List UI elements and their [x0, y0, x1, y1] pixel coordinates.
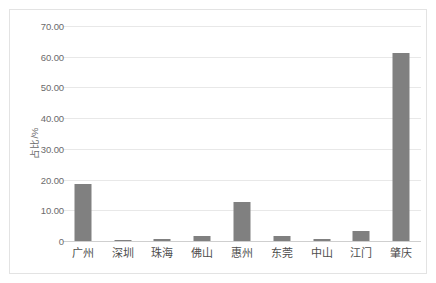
bar-slot	[341, 26, 381, 241]
axis-baseline	[63, 241, 421, 242]
bar[interactable]	[154, 239, 171, 241]
x-tick-label: 佛山	[191, 244, 213, 260]
chart-frame: 占比/% 010.0020.0030.0040.0050.0060.0070.0…	[9, 9, 427, 274]
bar-slot	[103, 26, 143, 241]
x-tick-label: 肇庆	[390, 244, 412, 260]
bar[interactable]	[194, 236, 211, 241]
bar-slot	[302, 26, 342, 241]
x-tick-label: 中山	[311, 244, 333, 260]
bar-slot	[143, 26, 183, 241]
x-tick-label: 深圳	[112, 244, 134, 260]
x-tick-label: 江门	[350, 244, 372, 260]
bar-slot	[262, 26, 302, 241]
x-axis-category-labels: 广州深圳珠海佛山惠州东莞中山江门肇庆	[63, 244, 421, 264]
bar-slot	[381, 26, 421, 241]
y-tick-label: 0	[8, 236, 64, 247]
y-tick-label: 10.00	[8, 205, 64, 216]
y-tick-label: 30.00	[8, 143, 64, 154]
bar[interactable]	[74, 184, 91, 241]
chart-plot-wrapper: 占比/% 010.0020.0030.0040.0050.0060.0070.0…	[10, 10, 428, 275]
y-tick-label: 40.00	[8, 113, 64, 124]
bar[interactable]	[273, 236, 290, 241]
y-tick-label: 70.00	[8, 21, 64, 32]
y-tick-label: 50.00	[8, 82, 64, 93]
x-tick-label: 惠州	[231, 244, 253, 260]
bar[interactable]	[114, 240, 131, 241]
x-tick-label: 广州	[72, 244, 94, 260]
y-tick-label: 60.00	[8, 51, 64, 62]
x-tick-label: 珠海	[151, 244, 173, 260]
bar[interactable]	[353, 231, 370, 241]
bar[interactable]	[393, 53, 410, 241]
bar-slot	[222, 26, 262, 241]
bar[interactable]	[233, 202, 250, 241]
bar-slot	[182, 26, 222, 241]
bar-slot	[63, 26, 103, 241]
y-tick-label: 20.00	[8, 174, 64, 185]
bar-series	[63, 26, 421, 241]
x-tick-label: 东莞	[271, 244, 293, 260]
bar[interactable]	[313, 239, 330, 241]
plot-area: 010.0020.0030.0040.0050.0060.0070.00	[63, 26, 421, 241]
